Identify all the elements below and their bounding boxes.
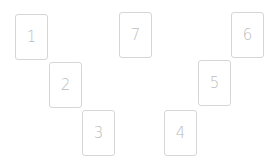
card-layout-canvas: 1 2 3 4 5 6 7 — [0, 0, 278, 166]
card-6-label: 6 — [243, 28, 253, 43]
card-5-label: 5 — [210, 76, 220, 91]
card-4[interactable]: 4 — [164, 110, 197, 156]
card-5[interactable]: 5 — [198, 60, 231, 106]
card-7[interactable]: 7 — [119, 12, 152, 58]
card-3-label: 3 — [94, 126, 104, 141]
card-7-label: 7 — [131, 28, 141, 43]
card-4-label: 4 — [176, 126, 186, 141]
card-2-label: 2 — [61, 78, 71, 93]
card-1[interactable]: 1 — [15, 14, 48, 60]
card-6[interactable]: 6 — [231, 12, 264, 58]
card-3[interactable]: 3 — [82, 110, 115, 156]
card-2[interactable]: 2 — [49, 62, 82, 108]
card-1-label: 1 — [27, 30, 37, 45]
